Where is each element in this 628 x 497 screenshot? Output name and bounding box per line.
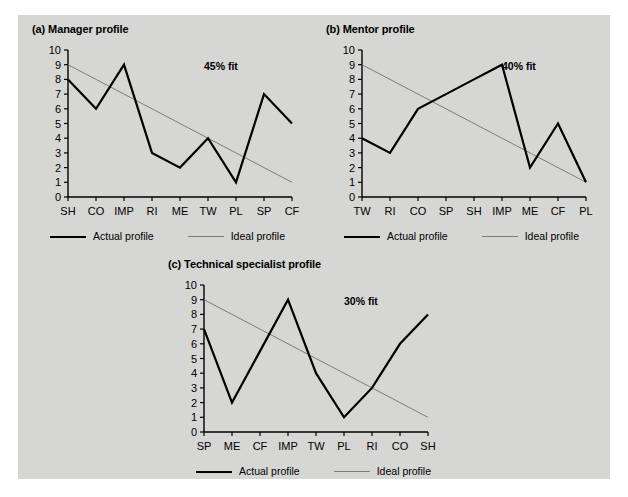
svg-text:4: 4 [349,132,355,144]
svg-text:8: 8 [191,308,197,320]
chart-c-legend-ideal-label: Ideal profile [377,465,431,477]
svg-text:5: 5 [191,353,197,365]
chart-manager-profile: (a) Manager profile 012345678910SHCOIMPR… [32,23,300,227]
chart-technical-specialist-profile: (c) Technical specialist profile 0123456… [168,258,436,462]
figure-panel: (a) Manager profile 012345678910SHCOIMPR… [18,15,610,479]
svg-text:CF: CF [253,440,268,452]
svg-text:0: 0 [55,191,61,203]
actual-line-swatch-icon [50,231,86,241]
svg-text:ME: ME [172,205,189,217]
svg-text:4: 4 [191,367,197,379]
svg-text:3: 3 [191,382,197,394]
svg-text:PL: PL [337,440,350,452]
svg-text:10: 10 [185,279,197,291]
svg-text:CO: CO [410,205,427,217]
svg-text:TW: TW [199,205,217,217]
chart-c-legend-actual: Actual profile [196,465,300,477]
svg-text:PL: PL [579,205,592,217]
chart-b-title: (b) Mentor profile [326,23,594,35]
chart-b-plot-area: 012345678910TWRICOSPSHIMPMECFPL 40% fit [326,42,594,227]
svg-text:CF: CF [285,205,300,217]
svg-text:CO: CO [88,205,105,217]
svg-text:IMP: IMP [114,205,134,217]
svg-text:8: 8 [349,73,355,85]
chart-c-title: (c) Technical specialist profile [168,258,436,270]
svg-text:4: 4 [55,132,61,144]
svg-text:7: 7 [55,88,61,100]
chart-b-legend: Actual profile Ideal profile [344,230,579,242]
svg-text:TW: TW [353,205,371,217]
svg-text:7: 7 [191,323,197,335]
svg-text:3: 3 [349,147,355,159]
chart-c-legend-actual-label: Actual profile [239,465,300,477]
svg-text:7: 7 [349,88,355,100]
svg-text:RI: RI [367,440,378,452]
svg-text:9: 9 [191,294,197,306]
svg-text:5: 5 [55,118,61,130]
svg-text:TW: TW [307,440,325,452]
svg-text:10: 10 [343,44,355,56]
actual-line-swatch-icon [344,231,380,241]
svg-text:SH: SH [420,440,435,452]
chart-c-fit-annotation: 30% fit [344,295,378,307]
chart-b-legend-actual-label: Actual profile [387,230,448,242]
svg-text:SP: SP [257,205,272,217]
chart-a-legend-actual: Actual profile [50,230,154,242]
chart-a-plot-area: 012345678910SHCOIMPRIMETWPLSPCF 45% fit [32,42,300,227]
ideal-line-swatch-icon [482,231,518,241]
svg-text:2: 2 [191,397,197,409]
actual-line-swatch-icon [196,466,232,476]
svg-text:5: 5 [349,118,355,130]
chart-b-legend-actual: Actual profile [344,230,448,242]
svg-text:SH: SH [466,205,481,217]
chart-mentor-profile: (b) Mentor profile 012345678910TWRICOSPS… [326,23,594,227]
chart-a-svg: 012345678910SHCOIMPRIMETWPLSPCF [32,42,300,227]
chart-a-fit-annotation: 45% fit [204,60,238,72]
svg-text:6: 6 [191,338,197,350]
svg-text:1: 1 [349,176,355,188]
chart-a-legend: Actual profile Ideal profile [50,230,285,242]
chart-c-plot-area: 012345678910SPMECFIMPTWPLRICOSH 30% fit [168,277,436,462]
svg-text:SH: SH [60,205,75,217]
svg-text:CF: CF [551,205,566,217]
svg-text:CO: CO [392,440,409,452]
svg-text:3: 3 [55,147,61,159]
svg-text:9: 9 [55,59,61,71]
chart-a-title: (a) Manager profile [32,23,300,35]
svg-text:RI: RI [385,205,396,217]
chart-c-legend-ideal: Ideal profile [334,465,431,477]
svg-text:1: 1 [55,176,61,188]
svg-text:IMP: IMP [278,440,298,452]
svg-text:RI: RI [147,205,158,217]
chart-c-legend: Actual profile Ideal profile [196,465,431,477]
chart-a-legend-actual-label: Actual profile [93,230,154,242]
chart-b-svg: 012345678910TWRICOSPSHIMPMECFPL [326,42,594,227]
chart-c-svg: 012345678910SPMECFIMPTWPLRICOSH [168,277,436,462]
chart-a-legend-ideal-label: Ideal profile [231,230,285,242]
chart-a-legend-ideal: Ideal profile [188,230,285,242]
svg-text:9: 9 [349,59,355,71]
svg-text:SP: SP [197,440,212,452]
svg-text:2: 2 [349,162,355,174]
chart-b-fit-annotation: 40% fit [502,60,536,72]
svg-text:IMP: IMP [492,205,512,217]
svg-text:6: 6 [55,103,61,115]
chart-b-legend-ideal-label: Ideal profile [525,230,579,242]
svg-text:2: 2 [55,162,61,174]
svg-text:SP: SP [439,205,454,217]
svg-text:6: 6 [349,103,355,115]
svg-text:PL: PL [229,205,242,217]
ideal-line-swatch-icon [334,466,370,476]
ideal-line-swatch-icon [188,231,224,241]
svg-text:0: 0 [191,426,197,438]
svg-text:ME: ME [224,440,241,452]
svg-text:10: 10 [49,44,61,56]
svg-text:ME: ME [522,205,539,217]
svg-text:1: 1 [191,411,197,423]
svg-text:8: 8 [55,73,61,85]
chart-b-legend-ideal: Ideal profile [482,230,579,242]
svg-text:0: 0 [349,191,355,203]
